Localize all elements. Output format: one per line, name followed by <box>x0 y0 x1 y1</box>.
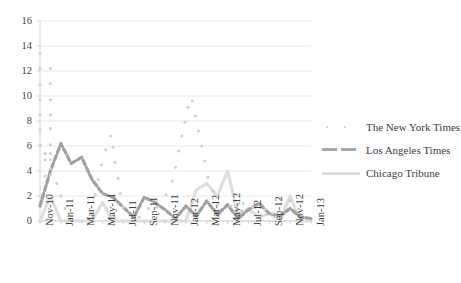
y-tick-label: 12 <box>6 66 32 77</box>
x-tick-label: Mar-12 <box>211 195 222 226</box>
y-tick-label: 0 <box>6 216 32 227</box>
legend-label-los-angeles-times: Los Angeles Times <box>366 144 450 156</box>
x-tick-label: Mar-11 <box>86 195 97 226</box>
y-tick-label: 8 <box>6 116 32 127</box>
x-tick-label: Nov-11 <box>170 194 181 226</box>
dotted-marker-icon <box>322 121 360 133</box>
chart-container: 0246810121416 Nov-10Jan-11Mar-11May-11Ju… <box>0 0 461 283</box>
y-tick-label: 14 <box>6 41 32 52</box>
x-tick-label: Sep-12 <box>274 196 285 226</box>
y-tick-label: 10 <box>6 91 32 102</box>
x-tick-label: May-12 <box>232 193 243 226</box>
legend-item-los-angeles-times[interactable]: Los Angeles Times <box>322 140 461 160</box>
y-tick-label: 2 <box>6 191 32 202</box>
x-tick-label: Jan-13 <box>316 198 327 226</box>
legend-label-new-york-times: The New York Times <box>366 121 460 133</box>
solid-marker-icon <box>322 167 360 179</box>
x-tick-label: Jan-12 <box>190 198 201 226</box>
chart-legend: The New York Times Los Angeles Times Chi… <box>322 117 461 186</box>
y-tick-label: 6 <box>6 141 32 152</box>
gridlines <box>40 21 311 221</box>
y-tick-label: 16 <box>6 16 32 27</box>
x-tick-label: Jul-12 <box>253 200 264 226</box>
legend-item-chicago-tribune[interactable]: Chicago Tribune <box>322 163 461 183</box>
x-tick-label: Sep-11 <box>149 197 160 226</box>
legend-label-chicago-tribune: Chicago Tribune <box>366 167 440 179</box>
legend-item-new-york-times[interactable]: The New York Times <box>322 117 461 137</box>
x-tick-label: Nov-10 <box>45 194 56 226</box>
x-tick-label: Jan-11 <box>65 198 76 226</box>
x-tick-label: May-11 <box>107 193 118 226</box>
series-scatter-new-york-times <box>39 52 292 219</box>
x-tick-label: Nov-12 <box>295 194 306 226</box>
dashed-marker-icon <box>322 144 360 156</box>
y-tick-label: 4 <box>6 166 32 177</box>
x-tick-label: Jul-11 <box>128 200 139 226</box>
